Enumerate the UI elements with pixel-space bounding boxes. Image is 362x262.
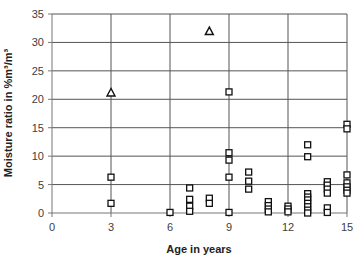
square-marker bbox=[344, 190, 350, 196]
y-tick-label: 5 bbox=[38, 179, 44, 191]
triangle-marker bbox=[205, 27, 213, 35]
x-tick-label: 6 bbox=[167, 221, 173, 233]
x-tick-label: 0 bbox=[49, 221, 55, 233]
square-marker bbox=[226, 209, 232, 215]
square-marker bbox=[108, 174, 114, 180]
square-marker bbox=[305, 154, 311, 160]
square-marker bbox=[285, 209, 291, 215]
axes bbox=[52, 14, 347, 213]
y-axis-label: Moisture ratio in %m³/m³ bbox=[2, 48, 14, 177]
square-marker bbox=[305, 142, 311, 148]
x-tick-label: 15 bbox=[341, 221, 353, 233]
triangle-marker bbox=[107, 88, 115, 96]
square-marker bbox=[226, 174, 232, 180]
square-marker bbox=[265, 209, 271, 215]
square-marker bbox=[344, 126, 350, 132]
y-tick-label: 15 bbox=[32, 122, 44, 134]
y-tick-label: 0 bbox=[38, 207, 44, 219]
square-marker bbox=[206, 200, 212, 206]
square-marker bbox=[324, 209, 330, 215]
y-tick-label: 25 bbox=[32, 65, 44, 77]
square-marker bbox=[108, 200, 114, 206]
y-tick-label: 10 bbox=[32, 150, 44, 162]
square-marker bbox=[187, 208, 193, 214]
y-tick-label: 20 bbox=[32, 93, 44, 105]
x-tick-label: 3 bbox=[108, 221, 114, 233]
square-marker bbox=[246, 169, 252, 175]
square-marker bbox=[226, 89, 232, 95]
square-marker bbox=[226, 150, 232, 156]
square-marker bbox=[167, 209, 173, 215]
y-tick-label: 30 bbox=[32, 36, 44, 48]
square-marker bbox=[226, 157, 232, 163]
grid-lines bbox=[52, 14, 347, 213]
y-tick-label: 35 bbox=[32, 8, 44, 20]
x-tick-label: 9 bbox=[226, 221, 232, 233]
square-marker bbox=[324, 190, 330, 196]
square-marker bbox=[187, 185, 193, 191]
y-axis-ticks: 05101520253035 bbox=[32, 8, 52, 219]
x-tick-label: 12 bbox=[282, 221, 294, 233]
x-axis-label: Age in years bbox=[166, 243, 231, 255]
scatter-chart: 05101520253035 03691215 Age in years Moi… bbox=[0, 0, 362, 262]
square-marker bbox=[246, 178, 252, 184]
square-marker bbox=[246, 186, 252, 192]
square-marker bbox=[187, 196, 193, 202]
square-marker bbox=[344, 172, 350, 178]
square-marker bbox=[305, 210, 311, 216]
